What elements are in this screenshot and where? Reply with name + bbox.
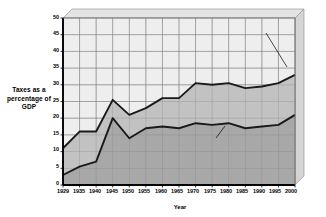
chart-bevel-right [295, 9, 304, 185]
chart-plot-area [0, 0, 326, 217]
chart-container: Taxes as a percentage of GDP Year 50 45 … [0, 0, 326, 217]
chart-bevel-top [63, 9, 304, 18]
